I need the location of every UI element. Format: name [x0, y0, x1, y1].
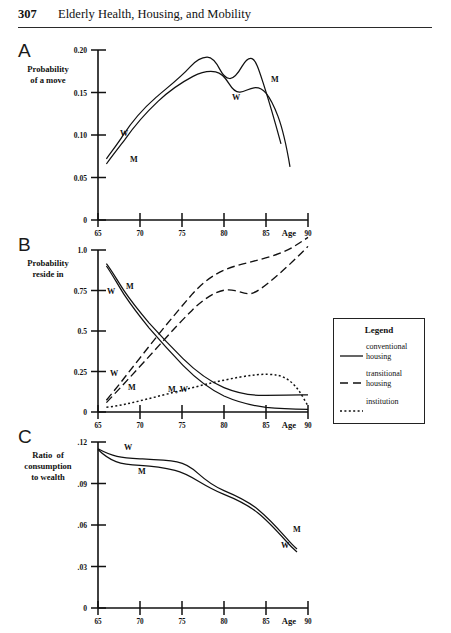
panel-a-plot: 0 0.05 0.10 0.15 0.20 65 70 75 80 85 90 …: [0, 38, 340, 238]
svg-text:.03: .03: [78, 563, 88, 572]
legend-swatch-dotted: [340, 401, 363, 409]
panel-c-label-w2: W: [281, 541, 290, 550]
legend-label-conventional: conventional housing: [366, 342, 424, 361]
panel-b-label-m-conv: M: [126, 282, 134, 291]
panel-a-label-m2: M: [271, 75, 279, 84]
panel-a-series-m: [106, 71, 290, 166]
panel-c-label-w: W: [124, 443, 133, 452]
svg-text:0: 0: [83, 216, 87, 225]
panel-c-x-ticklabels: 65 70 75 80 85 90: [94, 618, 312, 626]
svg-text:65: 65: [94, 618, 102, 626]
svg-text:0.5: 0.5: [78, 327, 88, 336]
panel-b-series-w-transitional: [106, 237, 308, 400]
legend-label-transitional: transitional housing: [366, 369, 424, 388]
legend-title: Legend: [334, 325, 424, 335]
svg-text:75: 75: [178, 618, 186, 626]
svg-text:0.75: 0.75: [74, 287, 87, 296]
panel-b-series-w-conventional: [106, 264, 308, 396]
svg-text:.06: .06: [78, 521, 88, 530]
legend-swatch-dashed: [340, 373, 363, 381]
svg-text:.09: .09: [78, 480, 88, 489]
panel-b-label-w-trans: W: [110, 369, 119, 378]
panel-c-xlabel: Age: [282, 616, 297, 626]
panel-b-series-m-conventional: [106, 266, 308, 409]
svg-text:0.15: 0.15: [74, 89, 87, 98]
svg-text:80: 80: [220, 618, 228, 626]
running-head: Elderly Health, Housing, and Mobility: [58, 7, 251, 22]
svg-text:0.10: 0.10: [74, 131, 87, 140]
panel-a-y-ticklabels: 0 0.05 0.10 0.15 0.20: [74, 46, 88, 225]
page-number: 307: [18, 7, 37, 22]
legend-box: Legend conventional housing transitional…: [333, 318, 425, 424]
svg-text:0.25: 0.25: [74, 368, 87, 377]
header-rule: [18, 27, 432, 28]
panel-c-label-m: M: [138, 467, 146, 476]
panel-c-plot: 0 .03 .06 .09 .12 65 70 75 80 85 90 Age: [0, 424, 340, 630]
legend-swatch-solid: [340, 346, 363, 354]
panel-b-series-institution: [106, 374, 308, 407]
panel-b-y-ticklabels: 0 0.25 0.5 0.75 1.0: [74, 246, 88, 417]
panel-a-label-w: W: [120, 129, 129, 138]
panel-b-label-w-conv: W: [107, 287, 116, 296]
panel-a-label-m: M: [130, 155, 138, 164]
panel-c-label-m2: M: [293, 525, 301, 534]
panel-b-plot: 0 0.25 0.5 0.75 1.0 65 70 75 80 85 90 Ag…: [0, 232, 340, 430]
svg-text:.12: .12: [78, 438, 88, 447]
panel-b-label-m-trans: M: [128, 383, 136, 392]
svg-text:90: 90: [304, 618, 312, 626]
svg-text:0.20: 0.20: [74, 46, 87, 55]
svg-text:85: 85: [262, 618, 270, 626]
svg-text:0: 0: [83, 408, 87, 417]
panel-a-label-w2: W: [232, 93, 241, 102]
panel-c-series-m: [98, 450, 297, 553]
svg-text:1.0: 1.0: [78, 246, 88, 255]
panel-b-label-mw-inst: M, W: [168, 385, 189, 394]
panel-a-series-w: [106, 57, 281, 159]
document-page: 307 Elderly Health, Housing, and Mobilit…: [0, 0, 451, 633]
legend-label-institution: institution: [366, 397, 398, 407]
svg-text:0.05: 0.05: [74, 174, 87, 183]
page-header: 307 Elderly Health, Housing, and Mobilit…: [0, 0, 451, 30]
svg-text:0: 0: [83, 604, 87, 613]
svg-text:70: 70: [136, 618, 144, 626]
panel-c-y-ticklabels: 0 .03 .06 .09 .12: [78, 438, 88, 613]
